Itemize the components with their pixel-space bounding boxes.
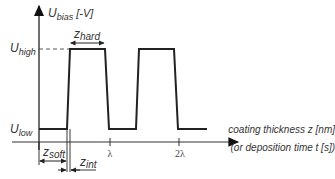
x-axis-label-line1: coating thickness z [nm]: [228, 124, 335, 135]
u-high-label: Uhigh: [10, 41, 36, 57]
bias-waveform: [39, 49, 207, 129]
x-axis-label-line2: (or deposition time t [s]): [231, 142, 335, 153]
y-axis-label: Ubias [-V]: [48, 6, 94, 22]
z-soft-label: zsoft: [42, 145, 66, 160]
bias-voltage-diagram: λ 2λ Ubias [-V] Uhigh Ulow zhard zsoft z…: [0, 0, 335, 179]
tick-label-2lambda: 2λ: [175, 148, 185, 159]
u-low-label: Ulow: [10, 122, 33, 138]
z-int-label: zint: [79, 155, 98, 170]
tick-label-lambda: λ: [108, 148, 113, 159]
z-hard-label: zhard: [73, 27, 100, 42]
